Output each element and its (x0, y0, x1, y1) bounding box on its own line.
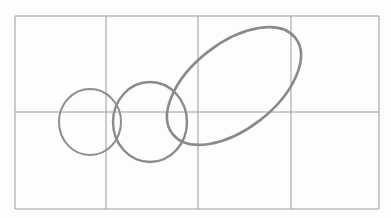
figure-canvas (0, 0, 391, 218)
figure-svg (0, 0, 391, 218)
paper-background (0, 0, 391, 218)
